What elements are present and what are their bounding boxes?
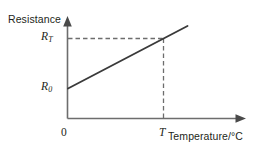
x-tick-t-symbol: T [159, 126, 165, 138]
y-axis-arrowhead [63, 16, 72, 27]
x-axis-arrowhead [236, 114, 247, 123]
y-tick-label-rt: RT [41, 31, 52, 43]
y-tick-r0-subscript: 0 [48, 85, 52, 94]
resistance-line [68, 26, 188, 89]
x-axis-title: Temperature/°C [168, 131, 243, 142]
origin-label: 0 [61, 127, 67, 139]
x-tick-label-t: T [159, 127, 165, 139]
y-tick-label-r0: R0 [41, 81, 52, 93]
resistance-temperature-graph: Resistance Temperature/°C RT R0 0 T [0, 0, 263, 157]
y-tick-rt-subscript: T [48, 35, 52, 44]
y-tick-rt-symbol: R [41, 30, 48, 42]
y-tick-r0-symbol: R [41, 80, 48, 92]
y-axis-title: Resistance [8, 14, 61, 25]
